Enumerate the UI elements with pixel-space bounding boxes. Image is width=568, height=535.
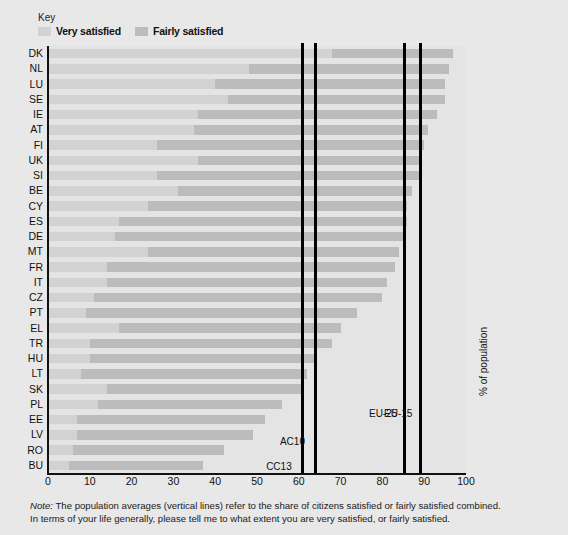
bar-segment-very-satisfied [48, 461, 69, 470]
bar-segment-very-satisfied [48, 232, 115, 241]
bar-segment-very-satisfied [48, 247, 148, 256]
category-label-ro: RO [27, 445, 43, 456]
bar-segment-very-satisfied [48, 445, 73, 454]
bar-segment-fairly-satisfied [69, 461, 203, 470]
category-label-tr: TR [29, 338, 43, 349]
category-label-ee: EE [29, 414, 43, 425]
legend-swatch-very-satisfied [38, 27, 51, 36]
bar-segment-fairly-satisfied [194, 125, 428, 134]
bar-segment-fairly-satisfied [98, 400, 282, 409]
bar-segment-very-satisfied [48, 217, 119, 226]
bar-segment-very-satisfied [48, 415, 77, 424]
bar-segment-fairly-satisfied [148, 201, 407, 210]
y-axis-line [47, 46, 49, 473]
bar-segment-very-satisfied [48, 125, 194, 134]
legend-entries: Very satisfied Fairly satisfied [38, 25, 318, 37]
category-label-cy: CY [28, 201, 43, 212]
bar-segment-very-satisfied [48, 369, 81, 378]
bar-segment-very-satisfied [48, 140, 157, 149]
reference-line-ac10 [314, 43, 317, 473]
bar-segment-very-satisfied [48, 79, 215, 88]
bar-segment-very-satisfied [48, 384, 107, 393]
category-label-se: SE [29, 94, 43, 105]
x-tick-60: 60 [293, 475, 305, 487]
x-tick-40: 40 [209, 475, 221, 487]
x-tick-0: 0 [45, 475, 51, 487]
bar-segment-very-satisfied [48, 262, 107, 271]
category-label-lt: LT [32, 368, 43, 379]
x-tick-80: 80 [377, 475, 389, 487]
bar-segment-fairly-satisfied [77, 415, 265, 424]
bar-segment-very-satisfied [48, 110, 198, 119]
reference-line-cc13 [301, 43, 304, 473]
bar-segment-fairly-satisfied [81, 369, 307, 378]
category-label-es: ES [29, 216, 43, 227]
category-label-el: EL [30, 323, 43, 334]
bar-segment-fairly-satisfied [107, 278, 387, 287]
bar-segment-very-satisfied [48, 339, 90, 348]
bar-segment-fairly-satisfied [215, 79, 445, 88]
category-label-fi: FI [34, 140, 43, 151]
bar-segment-fairly-satisfied [90, 339, 332, 348]
bar-segment-very-satisfied [48, 171, 157, 180]
category-label-pt: PT [30, 307, 43, 318]
bar-segment-very-satisfied [48, 354, 90, 363]
x-tick-10: 10 [84, 475, 96, 487]
chart-figure: Key Very satisfied Fairly satisfied DKNL… [0, 0, 568, 535]
legend-entry-fairly-satisfied: Fairly satisfied [135, 25, 223, 37]
bar-segment-fairly-satisfied [198, 156, 420, 165]
category-label-dk: DK [28, 48, 43, 59]
category-label-lv: LV [31, 429, 43, 440]
bar-segment-fairly-satisfied [77, 430, 253, 439]
note-line-1: The population averages (vertical lines)… [53, 500, 501, 511]
category-label-it: IT [34, 277, 43, 288]
x-tick-20: 20 [126, 475, 138, 487]
x-tick-30: 30 [168, 475, 180, 487]
legend-title: Key [38, 12, 318, 23]
x-tick-90: 90 [418, 475, 430, 487]
category-label-ie: IE [33, 109, 43, 120]
category-label-sk: SK [29, 384, 43, 395]
bar-segment-very-satisfied [48, 430, 77, 439]
category-label-uk: UK [28, 155, 43, 166]
note-line-2: In terms of your life generally, please … [30, 513, 450, 524]
category-label-cz: CZ [29, 292, 43, 303]
bar-segment-fairly-satisfied [94, 293, 382, 302]
legend-entry-very-satisfied: Very satisfied [38, 25, 121, 37]
category-label-si: SI [33, 170, 43, 181]
bar-segment-very-satisfied [48, 278, 107, 287]
legend-swatch-fairly-satisfied [135, 27, 148, 36]
bar-segment-very-satisfied [48, 308, 86, 317]
bar-segment-very-satisfied [48, 156, 198, 165]
bar-segment-fairly-satisfied [119, 323, 341, 332]
category-label-mt: MT [28, 246, 43, 257]
bar-segment-very-satisfied [48, 201, 148, 210]
bar-segment-fairly-satisfied [90, 354, 316, 363]
x-tick-100: 100 [457, 475, 475, 487]
category-label-hu: HU [28, 353, 43, 364]
bar-segment-fairly-satisfied [119, 217, 407, 226]
bar-segment-fairly-satisfied [178, 186, 412, 195]
bar-segment-fairly-satisfied [198, 110, 436, 119]
bar-segment-very-satisfied [48, 186, 178, 195]
x-tick-50: 50 [251, 475, 263, 487]
bar-segment-very-satisfied [48, 49, 332, 58]
category-label-pl: PL [30, 399, 43, 410]
bar-segment-very-satisfied [48, 95, 228, 104]
category-label-fr: FR [29, 262, 43, 273]
bar-segment-fairly-satisfied [228, 95, 445, 104]
bar-segment-very-satisfied [48, 293, 94, 302]
bar-segment-fairly-satisfied [157, 171, 420, 180]
bar-segment-very-satisfied [48, 400, 98, 409]
plot-area: DKNLLUSEIEATFIUKSIBECYESDEMTFRITCZPTELTR… [48, 46, 466, 473]
x-tick-70: 70 [335, 475, 347, 487]
bar-segment-very-satisfied [48, 64, 249, 73]
bar-segment-fairly-satisfied [107, 384, 303, 393]
bar-segment-fairly-satisfied [107, 262, 395, 271]
y-axis-label: % of population [478, 327, 489, 396]
reference-line-eu-15 [419, 43, 422, 473]
reference-label-ac10: AC10 [280, 436, 305, 447]
bar-segment-very-satisfied [48, 323, 119, 332]
chart-note: Note: The population averages (vertical … [30, 499, 540, 525]
note-prefix: Note: [30, 500, 53, 511]
